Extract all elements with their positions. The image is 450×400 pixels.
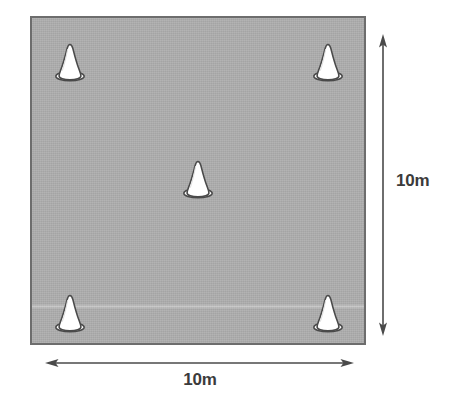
dimension-label-vertical: 10m <box>396 171 429 191</box>
double-arrow-vertical-icon <box>371 33 395 337</box>
cone-icon <box>305 40 351 84</box>
cone-icon <box>47 40 93 84</box>
cone-top-right <box>305 40 351 84</box>
cone-icon <box>175 157 221 201</box>
cone-center <box>175 157 221 201</box>
cone-icon <box>47 291 93 335</box>
field-area <box>30 16 366 345</box>
diagram-canvas: 10m 10m <box>0 0 450 400</box>
cone-icon <box>305 291 351 335</box>
cone-bottom-right <box>305 291 351 335</box>
dimension-arrow-vertical <box>371 33 395 337</box>
cone-top-left <box>47 40 93 84</box>
dimension-label-horizontal: 10m <box>0 370 400 390</box>
cone-bottom-left <box>47 291 93 335</box>
